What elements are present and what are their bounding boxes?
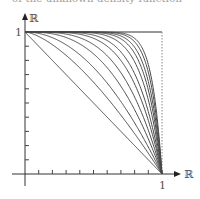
x-tick-label-one: 1 bbox=[159, 179, 166, 192]
x-axis-arrow-icon bbox=[174, 171, 181, 177]
x-axis-label: ℝ bbox=[184, 168, 194, 181]
y-tick-label-one: 1 bbox=[15, 26, 22, 39]
plot-canvas: ℝ ℝ 1 1 bbox=[0, 0, 200, 199]
y-axis-arrow-icon bbox=[22, 13, 28, 20]
y-axis-label: ℝ bbox=[29, 12, 39, 25]
curve-family bbox=[25, 32, 162, 174]
